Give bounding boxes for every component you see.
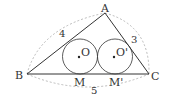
label-m-prime: M': [109, 76, 123, 89]
label-o-prime: O': [116, 46, 128, 59]
length-ac: 3: [131, 34, 137, 45]
label-b: B: [15, 69, 23, 82]
length-ab: 4: [59, 28, 65, 39]
label-a: A: [100, 2, 110, 15]
length-bc: 5: [91, 85, 97, 96]
dashed-arc-bc: [27, 74, 149, 87]
triangle-diagram: A B C M M' O O' 4 3 5: [0, 0, 169, 99]
label-m: M: [74, 76, 85, 89]
center-dot-o-prime: [113, 56, 115, 58]
label-c: C: [151, 70, 159, 83]
center-dot-o: [78, 56, 80, 58]
label-o: O: [81, 46, 90, 59]
